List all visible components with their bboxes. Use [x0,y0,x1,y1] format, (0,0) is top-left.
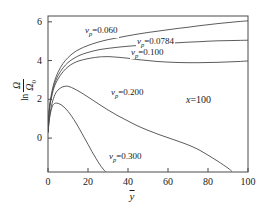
x-tick-label: 20 [73,176,103,187]
y-axis-label: ln Ω Ω0 [12,79,38,101]
x-axis-label-text: y [130,189,135,202]
annotation-x-value: x=100 [186,94,211,105]
x-axis-label: y [130,189,135,202]
y-tick-label: 6 [26,16,42,27]
x-tick-label: 60 [153,176,183,187]
curve-label-2: vp=0.100 [130,48,165,60]
y-axis-label-fraction: Ω Ω0 [12,79,38,92]
curve-label-0: vp=0.060 [84,26,119,38]
y-axis-label-denominator-sub: 0 [30,80,38,84]
curve-label-3: vp=0.200 [110,88,145,100]
curve-label-value: =0.300 [116,151,141,161]
y-axis-label-denominator: Ω0 [24,79,38,92]
curve-label-value: =0.200 [118,87,143,97]
x-tick-label: 100 [233,176,263,187]
x-tick-label: 0 [33,176,63,187]
curve-label-value: =0.100 [138,47,163,57]
y-axis-label-numerator: Ω [12,81,23,90]
x-tick-label: 80 [193,176,223,187]
curve-2 [48,57,248,133]
curve-label-4: vp=0.300 [108,152,143,164]
x-tick-label: 40 [113,176,143,187]
y-axis-label-ln: ln [20,94,30,101]
y-tick-label: 0 [26,132,42,143]
y-axis-label-denominator-symbol: Ω [24,83,35,90]
curve-label-value: =0.060 [92,25,117,35]
curve-label-value: =0.0784 [144,36,174,46]
curve-4 [48,103,106,171]
chart-figure: 020406080100 0246 vp=0.060vp=0.0784vp=0.… [0,0,264,217]
annotation-value: =100 [190,94,211,105]
y-axis-label-wrapper: ln Ω Ω0 [8,62,42,118]
